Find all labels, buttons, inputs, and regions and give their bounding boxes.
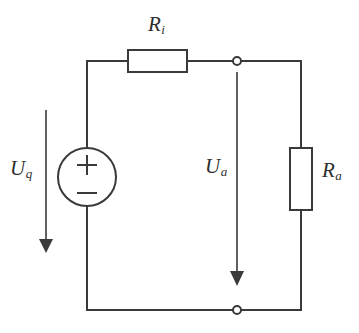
voltage-arrow-ua-head — [230, 271, 244, 286]
label-ra-symbol: R — [322, 158, 335, 182]
label-output-voltage-ua: Ua — [205, 156, 227, 178]
label-uq-symbol: U — [10, 156, 25, 180]
terminal-node-bottom-icon — [233, 306, 241, 314]
label-resistor-ri: Ri — [148, 14, 165, 36]
label-ua-symbol: U — [205, 154, 220, 178]
terminal-node-top-icon — [233, 57, 241, 65]
label-source-voltage-uq: Uq — [10, 158, 32, 180]
label-resistor-ra: Ra — [322, 160, 342, 182]
voltage-arrow-uq-head — [39, 239, 53, 253]
voltage-arrow-uq — [39, 110, 53, 253]
label-ua-subscript: a — [221, 164, 228, 179]
label-ri-subscript: i — [161, 22, 165, 37]
label-uq-subscript: q — [26, 166, 33, 181]
resistor-ra-body — [290, 148, 312, 210]
label-ra-subscript: a — [335, 168, 342, 183]
label-ri-symbol: R — [148, 12, 161, 36]
resistor-ri-body — [128, 50, 187, 72]
circuit-diagram-canvas: Ri Uq Ua Ra — [0, 0, 359, 333]
voltage-arrow-ua — [230, 72, 244, 286]
circuit-schematic — [0, 0, 359, 333]
